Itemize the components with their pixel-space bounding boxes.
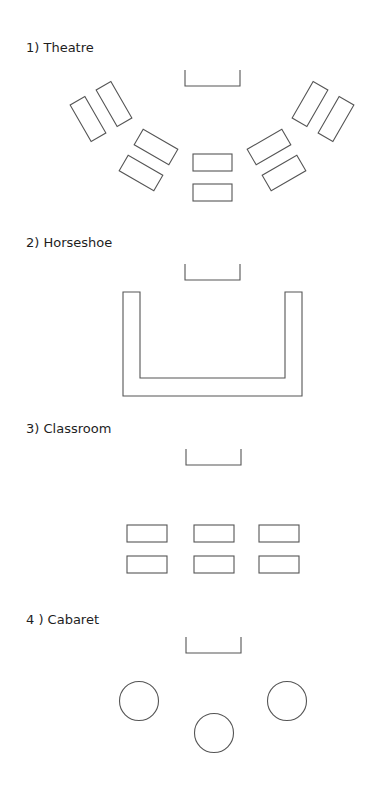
table-classroom-r1-c2 <box>194 525 234 542</box>
table-theatre-right-outer <box>318 97 354 142</box>
cabaret-layout <box>120 637 307 753</box>
table-theatre-left-inner <box>96 82 132 127</box>
table-theatre-left-upper <box>134 129 178 165</box>
stage-cabaret <box>186 637 241 653</box>
stage-horseshoe <box>185 264 240 280</box>
table-theatre-left-outer <box>70 97 106 142</box>
stage-theatre <box>185 70 240 86</box>
theatre-layout <box>70 70 354 201</box>
table-classroom-r2-c3 <box>259 556 299 573</box>
table-cabaret-center <box>195 714 234 753</box>
table-classroom-r2-c2 <box>194 556 234 573</box>
table-horseshoe <box>123 292 302 396</box>
table-classroom-r1-c3 <box>259 525 299 542</box>
horseshoe-layout <box>123 264 302 396</box>
table-theatre-center-back <box>193 184 232 201</box>
table-theatre-right-inner <box>292 82 328 127</box>
table-theatre-right-lower <box>262 155 306 191</box>
table-theatre-right-upper <box>247 129 291 165</box>
table-theatre-left-lower <box>119 155 163 191</box>
layout-diagram <box>0 0 367 796</box>
table-classroom-r1-c1 <box>127 525 167 542</box>
classroom-layout <box>127 449 299 573</box>
table-classroom-r2-c1 <box>127 556 167 573</box>
stage-classroom <box>186 449 241 465</box>
table-cabaret-left <box>120 682 159 721</box>
table-cabaret-right <box>268 682 307 721</box>
table-theatre-center-front <box>193 154 232 171</box>
